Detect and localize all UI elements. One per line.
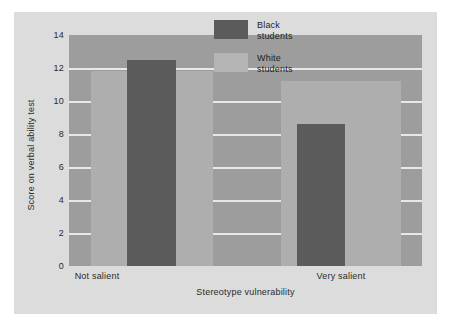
y-tick-8: 8 [36,129,64,139]
y-tick-0: 0 [36,261,64,271]
legend-label-white-students: White students [257,53,293,74]
y-tick-10: 10 [36,96,64,106]
white-swatch-icon [214,53,248,72]
black-swatch-icon [214,20,248,39]
legend-entry-white-students: White students [214,53,364,74]
y-tick-4: 4 [36,195,64,205]
y-axis-title: Score on verbal ability test [26,70,36,240]
y-tick-12: 12 [36,63,64,73]
x-tick-very-salient: Very salient [286,271,396,281]
figure-panel: 14 12 10 8 6 4 2 0 Score on verbal abili… [14,12,437,314]
legend: Black students White students [214,20,364,86]
y-tick-14: 14 [36,30,64,40]
x-tick-not-salient: Not salient [42,271,152,281]
bar-black-very-salient [297,124,345,266]
x-axis-title: Stereotype vulnerability [69,287,422,297]
y-tick-2: 2 [36,228,64,238]
legend-entry-black-students: Black students [214,20,364,41]
bar-black-not-salient [127,60,176,266]
y-tick-6: 6 [36,162,64,172]
legend-label-black-students: Black students [257,20,293,41]
